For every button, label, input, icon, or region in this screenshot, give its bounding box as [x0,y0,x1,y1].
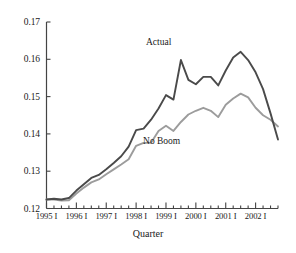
y-tick-label: 0.15 [10,92,40,102]
series-line-no-boom [47,94,279,201]
chart-figure: 0.170.160.150.140.130.12 1995 I1996 I199… [0,0,296,253]
series-label-no-boom: No Boom [143,136,180,147]
y-tick-label: 0.13 [10,166,40,176]
y-tick-label: 0.17 [10,17,40,27]
y-tick-label: 0.14 [10,129,40,139]
y-tick-label: 0.16 [10,54,40,64]
x-axis-title: Quarter [0,228,296,239]
series-line-actual [47,52,279,200]
series-label-actual: Actual [146,37,171,48]
x-tick-label: 2002 I [236,211,276,221]
